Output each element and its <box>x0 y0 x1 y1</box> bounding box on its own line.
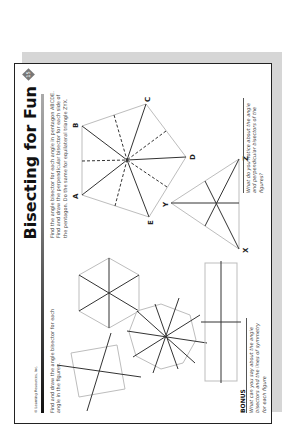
vertex-label-x: X <box>242 247 250 253</box>
rectangle-figure <box>201 261 241 383</box>
worksheet-page: © Learning Resources, Inc. Bisecting for… <box>14 63 272 424</box>
vertex-label-b: B <box>72 123 80 128</box>
vertex-label-a: A <box>72 193 80 199</box>
triangle-xyz: Y Z X <box>162 156 250 253</box>
bonus-heading: BONUS <box>239 389 246 413</box>
vertex-label-d: D <box>189 154 197 160</box>
vertex-label-y: Y <box>162 201 170 208</box>
vertex-label-c: C <box>144 97 152 102</box>
page-shadow-right <box>272 52 282 412</box>
square-figure <box>57 333 141 411</box>
vertex-label-e: E <box>147 220 155 225</box>
page-wrapper: © Learning Resources, Inc. Bisecting for… <box>14 63 272 424</box>
bisectors-question: What do you notice about the angle and p… <box>243 98 264 193</box>
pentagon-abcde: A B C D E <box>72 97 197 225</box>
figures-canvas: A B C D E Y Z X <box>15 63 272 423</box>
hexagon-figure <box>79 258 139 328</box>
bonus-question: What can you say about the angle bisecto… <box>246 318 267 413</box>
